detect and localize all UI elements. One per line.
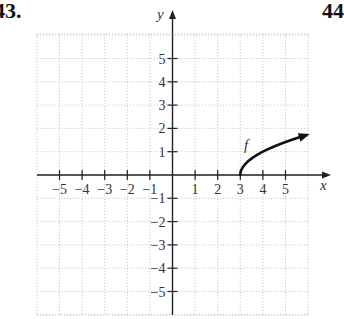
x-axis-label: x — [319, 177, 327, 193]
x-tick-label: 4 — [259, 182, 266, 197]
x-tick-label: 5 — [282, 182, 289, 197]
y-tick-label: −3 — [151, 238, 166, 253]
y-tick-label: −1 — [151, 191, 166, 206]
y-axis-arrow-icon — [169, 10, 176, 19]
x-tick-label: 3 — [237, 182, 244, 197]
y-tick-label: 1 — [159, 145, 166, 160]
x-tick-label: −4 — [75, 182, 90, 197]
y-tick-label: 3 — [159, 98, 166, 113]
axes — [37, 10, 331, 315]
y-tick-label: −5 — [151, 285, 166, 300]
y-tick-label: −2 — [151, 215, 166, 230]
y-tick-label: 2 — [159, 121, 166, 136]
function-curve-f — [240, 135, 305, 175]
x-tick-label: −2 — [120, 182, 135, 197]
curve-arrowhead-icon — [298, 133, 310, 142]
x-tick-label: 2 — [214, 182, 221, 197]
y-tick-label: 4 — [159, 75, 166, 90]
y-axis-label: y — [155, 6, 164, 22]
x-tick-label: 1 — [192, 182, 199, 197]
x-tick-label: −5 — [52, 182, 67, 197]
y-tick-label: −4 — [151, 261, 166, 276]
y-tick-label: 5 — [159, 52, 166, 67]
function-label: f — [244, 137, 250, 153]
x-tick-label: −3 — [97, 182, 112, 197]
